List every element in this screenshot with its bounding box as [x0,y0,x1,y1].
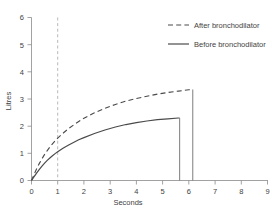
x-tick-label-0: 0 [29,187,33,196]
x-tick-label-5: 5 [161,187,165,196]
chart-canvas: 6 5 4 3 2 1 0 Litres 0 1 2 3 4 5 [0,0,272,210]
spirometry-chart: 6 5 4 3 2 1 0 Litres 0 1 2 3 4 5 [0,0,272,210]
y-tick-label-6: 6 [20,13,24,22]
y-tick-label-0: 0 [20,176,24,185]
curve-before-bronchodilator [32,118,180,180]
curve-after-bronchodilator [32,89,193,180]
x-tick-label-8: 8 [239,187,243,196]
x-tick-label-6: 6 [187,187,191,196]
y-tick-label-3: 3 [20,95,24,104]
x-axis: 0 1 2 3 4 5 6 7 8 9 Seconds [29,181,269,208]
x-tick-label-4: 4 [134,187,138,196]
x-tick-label-9: 9 [265,187,269,196]
y-axis: 6 5 4 3 2 1 0 Litres [4,13,32,185]
x-tick-label-1: 1 [56,187,60,196]
legend-label-before: Before bronchodilator [194,40,266,49]
x-tick-label-7: 7 [213,187,217,196]
y-axis-title: Litres [4,92,13,111]
x-axis-title: Seconds [113,198,142,207]
legend: After bronchodilator Before bronchodilat… [168,21,266,49]
y-tick-label-4: 4 [20,68,24,77]
y-tick-label-1: 1 [20,149,24,158]
y-tick-label-2: 2 [20,122,24,131]
x-tick-label-3: 3 [108,187,112,196]
x-tick-label-2: 2 [82,187,86,196]
y-tick-label-5: 5 [20,41,24,50]
legend-label-after: After bronchodilator [194,21,260,30]
